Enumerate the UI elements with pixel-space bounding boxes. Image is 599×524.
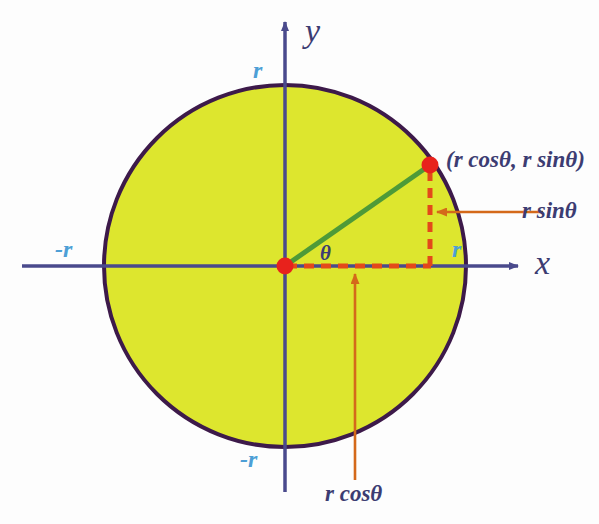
- x-axis-label: x: [535, 246, 550, 280]
- r-cos-theta-label: r cosθ: [325, 482, 382, 505]
- y-axis-label: y: [305, 14, 320, 48]
- r-sin-theta-label: r sinθ: [522, 199, 577, 222]
- origin-dot: [277, 258, 294, 275]
- point-on-circle-dot: [422, 157, 439, 174]
- unit-circle-figure: y x r -r r -r θ (r cosθ, r sinθ) r sinθ …: [0, 0, 599, 524]
- x-negative-tick-label: -r: [55, 237, 72, 261]
- diagram-canvas: [0, 0, 599, 524]
- x-positive-tick-label: r: [452, 237, 461, 261]
- y-negative-tick-label: -r: [240, 447, 257, 471]
- y-positive-tick-label: r: [253, 58, 262, 82]
- point-coordinates-label: (r cosθ, r sinθ): [446, 148, 585, 171]
- angle-theta-label: θ: [320, 243, 331, 264]
